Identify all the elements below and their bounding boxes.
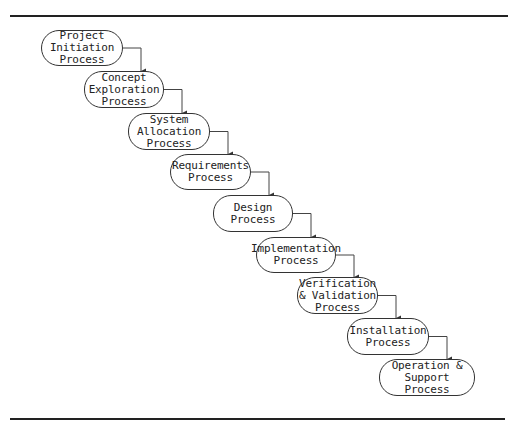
- step-requirements: Requirements Process: [170, 154, 251, 190]
- flow-arrow: [251, 172, 269, 195]
- flow-arrow: [293, 214, 311, 238]
- step-label: System Allocation Process: [137, 114, 201, 150]
- step-label: Installation Process: [349, 325, 426, 349]
- step-system-allocation: System Allocation Process: [128, 113, 210, 150]
- step-concept-exploration: Concept Exploration Process: [84, 71, 164, 108]
- step-installation: Installation Process: [347, 318, 429, 355]
- step-label: Concept Exploration Process: [89, 72, 160, 108]
- step-verification-validation: Verification & Validation Process: [297, 277, 378, 314]
- step-label: Verification & Validation Process: [299, 278, 376, 314]
- step-label: Operation & Support Process: [380, 360, 474, 396]
- step-design: Design Process: [213, 195, 293, 232]
- step-label: Implementation Process: [251, 243, 341, 267]
- step-label: Requirements Process: [172, 160, 249, 184]
- step-project-initiation: Project Initiation Process: [41, 30, 123, 66]
- flow-arrow: [429, 337, 447, 360]
- flow-arrow: [164, 90, 182, 114]
- step-implementation: Implementation Process: [256, 237, 336, 273]
- flow-arrow: [378, 296, 396, 319]
- flow-arrow: [123, 48, 141, 71]
- step-label: Design Process: [231, 202, 276, 226]
- flow-arrow: [210, 132, 228, 155]
- step-label: Project Initiation Process: [50, 30, 114, 66]
- step-operation-support: Operation & Support Process: [379, 359, 475, 396]
